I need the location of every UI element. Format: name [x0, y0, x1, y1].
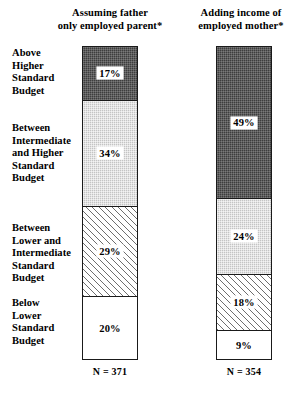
category-label-line: Budget [12, 272, 44, 283]
category-label-line: Intermediate [12, 135, 71, 146]
category-label-between-intermediate-and-higher-standard-budget: Between Intermediate and Higher Standard… [12, 122, 82, 185]
category-label-line: Standard [12, 160, 54, 171]
chart-column-header-right-line2: employed mother* [198, 20, 283, 31]
category-label-line: Between [12, 122, 50, 133]
category-label-line: Lower [12, 310, 41, 321]
category-label-line: Standard [12, 72, 54, 83]
stacked-bar-adding-mother-income: 49% 24% 18% 9% [216, 46, 272, 360]
sample-size-label-right: N = 354 [189, 366, 297, 377]
category-label-line: Budget [12, 172, 44, 183]
category-label-line: Budget [12, 85, 44, 96]
bar-segment-value: 18% [231, 296, 257, 308]
category-label-line: Higher [12, 60, 44, 71]
chart-column-header-left-line1: Assuming father [72, 7, 148, 18]
bar-segment-value: 49% [231, 117, 257, 129]
category-label-line: Above [12, 47, 41, 58]
category-label-line: Between [12, 222, 50, 233]
chart-column-header-left: Assuming father only employed parent* [48, 7, 172, 32]
stacked-bar-father-only: 17% 34% 29% 20% [82, 46, 138, 360]
bar-segment-value: 24% [231, 230, 257, 242]
chart-column-header-right: Adding income of employed mother* [186, 7, 296, 32]
bar-segment-value: 34% [97, 147, 123, 159]
category-label-line: and Higher [12, 147, 64, 158]
stacked-bar-chart: Assuming father only employed parent* Ad… [0, 0, 297, 400]
chart-column-header-right-line1: Adding income of [201, 7, 282, 18]
bar-segment-between-lower-intermediate: 29% [83, 206, 137, 297]
category-label-line: Budget [12, 335, 44, 346]
bar-segment-between-intermediate-higher: 24% [217, 198, 271, 273]
category-label-line: Intermediate [12, 247, 71, 258]
bar-segment-value: 17% [97, 67, 123, 79]
category-label-line: Standard [12, 260, 54, 271]
category-label-line: Lower and [12, 235, 61, 246]
bar-segment-between-intermediate-higher: 34% [83, 100, 137, 206]
category-label-line: Standard [12, 322, 54, 333]
bar-segment-value: 9% [236, 340, 252, 351]
bar-segment-above-higher: 17% [83, 47, 137, 100]
bar-segment-value: 20% [99, 323, 120, 334]
chart-column-header-left-line2: only employed parent* [58, 20, 163, 31]
bar-segment-below-lower: 20% [83, 296, 137, 359]
category-label-above-higher-standard-budget: Above Higher Standard Budget [12, 47, 82, 97]
bar-segment-above-higher: 49% [217, 47, 271, 198]
category-label-line: Below [12, 297, 40, 308]
bar-segment-below-lower: 9% [217, 330, 271, 359]
sample-size-label-left: N = 371 [55, 366, 165, 377]
bar-segment-value: 29% [97, 245, 123, 257]
category-label-below-lower-standard-budget: Below Lower Standard Budget [12, 297, 82, 347]
category-label-between-lower-and-intermediate-standard-budget: Between Lower and Intermediate Standard … [12, 222, 82, 285]
bar-segment-between-lower-intermediate: 18% [217, 274, 271, 331]
